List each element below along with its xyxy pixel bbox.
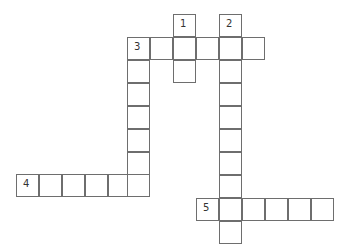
crossword-cell[interactable] [219,175,242,198]
crossword-cell[interactable] [173,60,196,83]
crossword-cell[interactable] [219,129,242,152]
crossword-cell[interactable] [127,106,150,129]
crossword-cell[interactable] [219,198,242,221]
crossword-cell[interactable] [150,37,173,60]
crossword-cell[interactable] [265,198,288,221]
crossword-cell[interactable] [219,106,242,129]
crossword-cell[interactable] [219,221,242,244]
crossword-cell[interactable] [219,152,242,175]
crossword-cell-3[interactable]: 3 [127,37,150,60]
crossword-cell-2[interactable]: 2 [219,14,242,37]
crossword-grid: 12345 [0,0,346,246]
crossword-cell[interactable] [85,174,108,197]
crossword-cell-5[interactable]: 5 [196,198,219,221]
crossword-cell[interactable] [127,152,150,175]
crossword-cell[interactable] [39,174,62,197]
crossword-cell[interactable] [196,37,219,60]
crossword-cell[interactable] [127,60,150,83]
crossword-cell[interactable] [127,174,150,197]
crossword-cell[interactable] [242,198,265,221]
crossword-cell[interactable] [242,37,265,60]
crossword-cell[interactable] [62,174,85,197]
crossword-cell-1[interactable]: 1 [173,14,196,37]
crossword-cell[interactable] [127,129,150,152]
crossword-cell[interactable] [173,37,196,60]
clue-number: 5 [203,203,209,213]
crossword-cell[interactable] [219,37,242,60]
crossword-cell[interactable] [219,60,242,83]
clue-number: 3 [134,42,140,52]
clue-number: 2 [226,19,232,29]
clue-number: 4 [23,179,29,189]
crossword-cell-4[interactable]: 4 [16,174,39,197]
crossword-cell[interactable] [288,198,311,221]
crossword-cell[interactable] [127,83,150,106]
crossword-cell[interactable] [219,83,242,106]
crossword-cell[interactable] [311,198,334,221]
clue-number: 1 [180,19,186,29]
